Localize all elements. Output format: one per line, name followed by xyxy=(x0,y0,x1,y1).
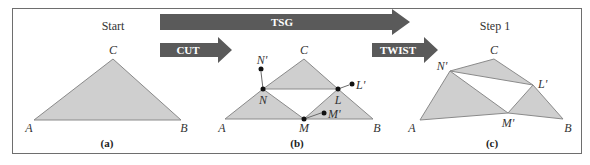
vertex-c-label: C xyxy=(109,43,118,57)
vertex-c-label: C xyxy=(490,43,499,57)
vertex-l-label: L xyxy=(334,93,342,107)
vertex-m-prime-label: M' xyxy=(501,116,515,130)
point-n-prime xyxy=(259,67,264,72)
tsg-label: TSG xyxy=(271,16,293,28)
n-displacement xyxy=(261,72,263,89)
triangle-nlc xyxy=(263,59,338,89)
vertex-b-label: B xyxy=(564,121,572,135)
triangle-m-b-l xyxy=(508,85,563,119)
vertex-m-label: M xyxy=(298,121,310,135)
vertex-n-prime-label: N' xyxy=(256,53,268,67)
panel-b: C N' N L L' M' M A B (b) xyxy=(217,43,381,150)
twist-arrow: TWIST xyxy=(372,37,438,63)
triangle-abc xyxy=(34,59,181,120)
point-m-prime xyxy=(322,111,327,116)
vertex-a-label: A xyxy=(217,121,226,135)
vertex-c-label: C xyxy=(300,43,309,57)
vertex-n-label: N xyxy=(258,93,268,107)
panel-c-heading: Step 1 xyxy=(480,19,510,33)
vertex-l-prime-label: L' xyxy=(537,77,548,91)
vertex-b-label: B xyxy=(373,121,381,135)
cut-label: CUT xyxy=(176,44,200,56)
twist-label: TWIST xyxy=(380,44,417,56)
panel-b-caption: (b) xyxy=(290,137,304,150)
panel-a-heading: Start xyxy=(102,19,125,33)
point-l xyxy=(336,87,341,92)
point-n xyxy=(261,87,266,92)
diagram-canvas: TSG CUT TWIST Start C A B (a) C N' N L xyxy=(0,0,590,165)
panel-c-caption: (c) xyxy=(486,137,499,150)
tsg-arrow: TSG xyxy=(160,9,410,35)
panel-a: Start C A B (a) xyxy=(24,19,188,150)
cut-arrow: CUT xyxy=(160,37,232,63)
vertex-m-prime-label: M' xyxy=(327,107,341,121)
panel-c: Step 1 C N' L' M' A B (c) xyxy=(407,19,572,150)
vertex-l-prime-label: L' xyxy=(355,78,366,92)
point-l-prime xyxy=(350,82,355,87)
vertex-a-label: A xyxy=(24,121,33,135)
vertex-a-label: A xyxy=(407,121,416,135)
vertex-n-prime-label: N' xyxy=(436,59,448,73)
panel-a-caption: (a) xyxy=(101,137,114,150)
vertex-b-label: B xyxy=(180,121,188,135)
